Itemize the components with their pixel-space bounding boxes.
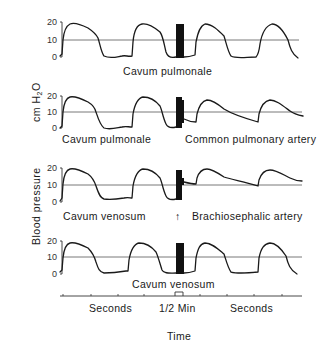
trace-cavum-venosum-right <box>184 243 297 274</box>
trace-cavum-pulmonale-left <box>60 97 176 129</box>
trace-cavum-venosum-left <box>60 243 176 273</box>
ytick-0: 0 <box>52 269 57 279</box>
y-axis-title: Blood pressure <box>30 167 42 245</box>
time-label-seconds-left: Seconds <box>89 302 132 314</box>
label-common-pulmonary-artery: Common pulmonary artery <box>185 133 317 145</box>
ytick-20: 20 <box>47 17 57 27</box>
recording-gap-marker <box>176 97 184 128</box>
ytick-10: 10 <box>47 35 57 45</box>
label-cavum-venosum: Cavum venosum <box>63 210 146 222</box>
ytick-20: 20 <box>47 236 57 246</box>
panel-3: 20 10 0 Cavum venosum ↑ Brachiosephalic … <box>47 163 303 222</box>
label-cavum-venosum: Cavum venosum <box>132 278 215 290</box>
recording-gap-marker <box>176 24 184 58</box>
time-label-seconds-right: Seconds <box>230 302 273 314</box>
half-minute-bracket <box>175 292 183 296</box>
ytick-10: 10 <box>47 180 57 190</box>
panel-1: 20 10 0 Cavum pulmonale <box>47 17 299 77</box>
trace-cavum-pulmonale-right <box>184 24 298 58</box>
label-cavum-pulmonale: Cavum pulmonale <box>62 133 151 145</box>
ytick-0: 0 <box>52 52 57 62</box>
ytick-10: 10 <box>47 107 57 117</box>
panel-2: 20 10 0 Cavum pulmonale Common pulmonary… <box>47 91 317 145</box>
ytick-0: 0 <box>52 197 57 207</box>
recording-gap-marker <box>176 243 184 274</box>
time-label-half-minute: 1/2 Min <box>159 302 196 314</box>
ytick-10: 10 <box>47 252 57 262</box>
ytick-0: 0 <box>52 123 57 133</box>
y-axis-unit: cm H2O <box>30 82 43 122</box>
trace-common-pulmonary-artery <box>184 100 303 122</box>
arrow-up-icon: ↑ <box>175 210 181 222</box>
ytick-20: 20 <box>47 91 57 101</box>
panel-4: 20 10 0 Cavum venosum <box>47 236 302 290</box>
x-axis-title: Time <box>167 330 191 342</box>
time-axis: Seconds 1/2 Min Seconds Time <box>60 292 302 342</box>
blood-pressure-figure: Blood pressure cm H2O 20 10 0 Cavum pulm… <box>0 0 325 354</box>
label-brachiosephalic-artery: Brachiosephalic artery <box>192 210 303 222</box>
trace-brachiosephalic-artery <box>184 169 302 186</box>
label-cavum-pulmonale: Cavum pulmonale <box>123 65 212 77</box>
ytick-20: 20 <box>47 163 57 173</box>
recording-gap-marker <box>176 170 184 200</box>
